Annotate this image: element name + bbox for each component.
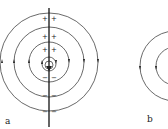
svg-text:+: + bbox=[42, 33, 48, 41]
svg-text:−: − bbox=[51, 92, 57, 100]
svg-text:−: − bbox=[42, 74, 48, 82]
arrow-icon bbox=[28, 59, 30, 63]
diagram-b bbox=[140, 31, 168, 101]
arrow-icon bbox=[97, 59, 99, 63]
svg-text:−: − bbox=[51, 108, 57, 116]
panel-label-a: a bbox=[5, 116, 10, 126]
diagram-a: ++ ++ ++ −− −− −− bbox=[0, 0, 168, 129]
svg-text:−: − bbox=[42, 92, 48, 100]
svg-text:−: − bbox=[42, 108, 48, 116]
svg-text:−: − bbox=[51, 74, 57, 82]
arrow-icon bbox=[13, 59, 15, 63]
svg-text:+: + bbox=[51, 46, 57, 54]
svg-text:+: + bbox=[42, 15, 48, 23]
svg-text:+: + bbox=[42, 46, 48, 54]
panel-label-b: b bbox=[147, 114, 153, 124]
arrow-icon bbox=[83, 59, 85, 63]
arrow-icon bbox=[139, 66, 141, 70]
arrow-icon bbox=[1, 59, 3, 63]
arrow-icon bbox=[68, 59, 70, 63]
svg-text:+: + bbox=[51, 15, 57, 23]
svg-text:+: + bbox=[51, 33, 57, 41]
